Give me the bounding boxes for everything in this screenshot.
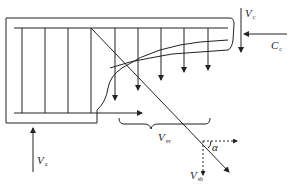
stirrup-force-brace <box>119 118 210 129</box>
shear-free-body-diagram: Vc Cc Va Vsv Vsb α <box>0 0 297 193</box>
label-Va: Va <box>37 155 47 167</box>
compression-zone <box>110 18 234 68</box>
label-Vsb: Vsb <box>190 170 203 182</box>
label-Cc: Cc <box>271 40 282 52</box>
angle-alpha-arc <box>208 141 211 148</box>
label-Vc: Vc <box>245 8 255 20</box>
label-alpha: α <box>212 142 218 153</box>
label-Vsv: Vsv <box>158 132 171 144</box>
